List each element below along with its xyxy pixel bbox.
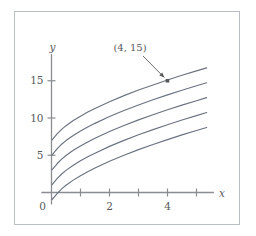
y-tick-label-5: 5	[37, 149, 44, 161]
x-tick-label-2: 2	[106, 200, 113, 212]
annotation-group: (4, 15)	[113, 42, 169, 83]
annotated-point-marker	[166, 79, 170, 83]
y-tick-label-10: 10	[30, 112, 43, 124]
y-axis-label: y	[49, 41, 57, 53]
curve-series-group	[52, 68, 207, 200]
curve-1	[52, 68, 207, 140]
y-tick-label-15: 15	[30, 74, 43, 86]
annotation-label: (4, 15)	[113, 42, 146, 53]
x-axis-label: x	[219, 187, 225, 199]
x-axis-tick-labels: 24	[106, 200, 171, 212]
chart-canvas: 24 51015 0 (4, 15) x y	[0, 0, 256, 236]
axes-group	[41, 54, 214, 204]
y-axis-tick-labels: 51015	[30, 74, 43, 161]
chart-screenshot: 24 51015 0 (4, 15) x y	[0, 0, 256, 236]
origin-label: 0	[39, 200, 46, 212]
x-tick-label-4: 4	[164, 200, 171, 212]
